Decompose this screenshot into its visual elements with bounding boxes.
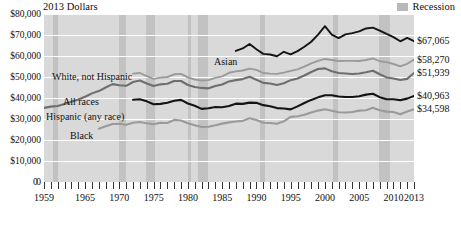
series-end-value-label: $67,065 <box>417 35 450 46</box>
chart-root: 2013 Dollars Recession 0$10,000$20,000$3… <box>0 0 461 225</box>
series-inline-label: Black <box>70 130 93 141</box>
series-inline-label: Hispanic (any race) <box>46 111 124 122</box>
series-inline-label: All races <box>63 96 99 107</box>
series-end-value-label: $40,963 <box>417 90 450 101</box>
series-end-value-label: $34,598 <box>417 103 450 114</box>
series-end-value-label: $58,270 <box>417 54 450 65</box>
series-inline-label: White, not Hispanic <box>52 71 132 82</box>
series-end-value-label: $51,939 <box>417 67 450 78</box>
y-zero-label: 0 <box>33 177 38 187</box>
series-inline-label: Asian <box>214 56 237 67</box>
